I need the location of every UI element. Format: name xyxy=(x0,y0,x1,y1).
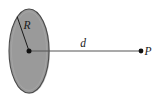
disk-point-charge-diagram: R d P xyxy=(0,0,161,100)
distance-label: d xyxy=(80,37,86,49)
point-label: P xyxy=(143,45,151,57)
field-point-P xyxy=(139,49,144,54)
disk-center-point xyxy=(27,49,32,54)
radius-label: R xyxy=(22,19,30,31)
figure-container: R d P xyxy=(0,0,161,100)
